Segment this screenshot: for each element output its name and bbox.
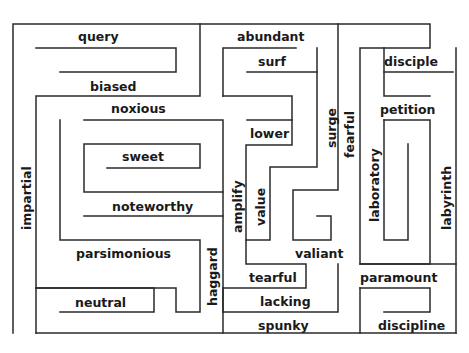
word-haggard: haggard: [207, 247, 220, 306]
word-surge: surge: [326, 108, 339, 148]
word-paramount: paramount: [360, 272, 437, 285]
word-laboratory: laboratory: [369, 148, 382, 222]
word-maze: query biased noxious sweet noteworthy pa…: [0, 0, 469, 353]
word-biased: biased: [90, 81, 137, 94]
word-amplify: amplify: [232, 180, 245, 233]
word-valiant: valiant: [295, 248, 343, 261]
word-surf: surf: [258, 56, 286, 69]
word-parsimonious: parsimonious: [76, 248, 171, 261]
word-value: value: [255, 188, 268, 226]
word-query: query: [78, 31, 119, 44]
word-spunky: spunky: [258, 320, 309, 333]
word-labyrinth: labyrinth: [441, 166, 454, 230]
word-disciple: disciple: [384, 56, 438, 69]
maze-walls: [0, 0, 469, 353]
word-neutral: neutral: [75, 297, 126, 310]
word-lacking: lacking: [260, 296, 311, 309]
word-lower: lower: [250, 128, 289, 141]
word-discipline: discipline: [378, 320, 445, 333]
word-sweet: sweet: [122, 151, 164, 164]
word-fearful: fearful: [344, 111, 357, 158]
word-impartial: impartial: [21, 166, 34, 230]
word-tearful: tearful: [249, 272, 297, 285]
word-petition: petition: [380, 104, 435, 117]
word-noteworthy: noteworthy: [112, 201, 193, 214]
word-abundant: abundant: [237, 31, 304, 44]
word-noxious: noxious: [111, 103, 166, 116]
